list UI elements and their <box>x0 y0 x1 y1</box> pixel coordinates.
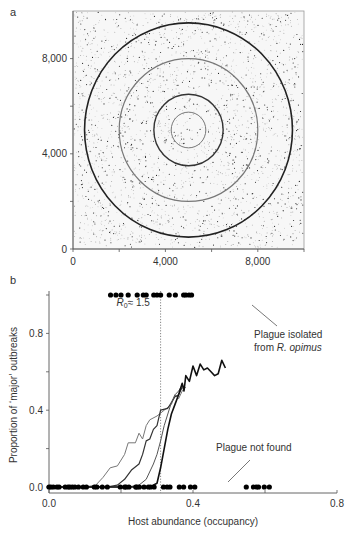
y-tick-label: 0.8 <box>29 328 43 339</box>
y-tick-label: 0.0 <box>29 482 43 493</box>
y-axis-label: Proportion of ‘major’ outbreaks <box>8 327 19 463</box>
plague-not-found-point <box>262 484 267 489</box>
panel-a-plot-area <box>73 11 304 249</box>
x-axis-label: Host abundance (occupancy) <box>128 516 258 527</box>
observation-points <box>46 292 272 489</box>
annotations: Plague isolated from R. opimus Plague no… <box>216 305 322 482</box>
plague-found-point <box>135 292 140 297</box>
plague-found-point <box>189 292 194 297</box>
plague-found-point <box>113 292 118 297</box>
plague-not-found-point <box>256 484 261 489</box>
plague-not-found-point <box>244 484 249 489</box>
plague-not-found-point <box>181 484 186 489</box>
plague-found-point <box>144 292 149 297</box>
annotation-leader-not-found <box>228 460 250 482</box>
x-tick-label: 0 <box>70 256 76 267</box>
annotation-leader-found <box>252 305 277 326</box>
panel-label-a: a <box>10 6 17 18</box>
panel-b-axes: 0.00.40.80.00.40.8 <box>29 291 344 509</box>
x-tick-label: 0.8 <box>330 498 344 509</box>
plague-not-found-point <box>126 484 131 489</box>
y-tick-label: 8,000 <box>42 53 67 64</box>
series-line-4 <box>49 360 225 487</box>
x-tick-label: 4,000 <box>153 256 178 267</box>
plague-not-found-point <box>56 484 61 489</box>
plague-not-found-point <box>137 484 142 489</box>
plague-not-found-point <box>105 484 110 489</box>
series-line-3 <box>49 385 182 487</box>
x-tick-label: 8,000 <box>245 256 270 267</box>
plague-not-found-point <box>84 484 89 489</box>
plague-found-point <box>167 292 172 297</box>
plague-found-point <box>108 292 113 297</box>
x-tick-label: 0.4 <box>186 498 200 509</box>
y-tick-label: 4,000 <box>42 148 67 159</box>
annotation-from-r-opimus: from R. opimus <box>254 342 322 353</box>
plague-not-found-point <box>167 484 172 489</box>
annotation-plague-isolated: Plague isolated <box>254 329 322 340</box>
y-tick-label: 0 <box>61 244 67 255</box>
r0-threshold-label: R0≈ 1.5 <box>117 297 151 309</box>
plague-found-point <box>158 292 163 297</box>
outbreak-curves <box>49 360 225 487</box>
series-line-2 <box>49 387 182 487</box>
plague-found-point <box>118 292 123 297</box>
y-tick-label: 0.4 <box>29 405 43 416</box>
plague-not-found-point <box>76 484 81 489</box>
plague-found-point <box>126 292 131 297</box>
plague-found-point <box>173 292 178 297</box>
plague-not-found-point <box>267 484 272 489</box>
plague-not-found-point <box>94 484 99 489</box>
panel-a-map: 04,0008,00004,0008,000 <box>42 11 304 267</box>
panel-label-b: b <box>10 274 16 286</box>
series-line-1 <box>49 387 186 487</box>
plague-not-found-point <box>192 484 197 489</box>
plague-not-found-point <box>100 484 105 489</box>
x-tick-label: 0.0 <box>42 498 56 509</box>
panel-b-chart: 0.00.40.80.00.40.8 R0≈ 1.5 Plague isolat… <box>8 291 344 527</box>
annotation-plague-not-found: Plague not found <box>216 442 292 453</box>
plague-not-found-point <box>152 484 157 489</box>
figure: a b 04,0008,00004,0008,000 0.00.40.80.00… <box>0 0 354 536</box>
